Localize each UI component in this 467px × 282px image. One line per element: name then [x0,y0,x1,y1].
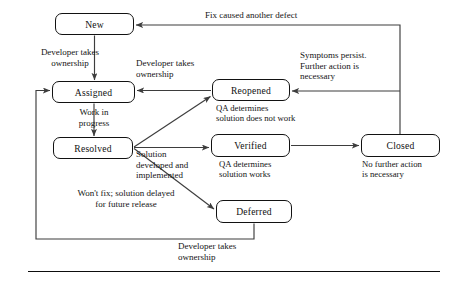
defect-lifecycle-diagram: New Assigned Resolved Reopened Verified … [0,0,467,282]
state-label-new: New [85,19,104,30]
state-label-reopened: Reopened [231,85,271,96]
edge-label-assigned-to-resolved: Work in progress [58,107,130,128]
state-label-resolved: Resolved [74,143,111,154]
state-node-reopened: Reopened [212,79,290,101]
edge-label-resolved-to-deferred: Won't fix; solution delayed for future r… [48,188,204,209]
edge-label-reopened-to-assigned: Developer takes ownership [136,58,239,79]
state-node-resolved: Resolved [53,137,133,159]
state-label-verified: Verified [234,140,267,151]
note-reopened: QA determines solution does not work [216,103,346,123]
state-node-closed: Closed [361,134,440,157]
edge-label-new-to-assigned: Developer takes ownership [14,47,126,68]
state-label-deferred: Deferred [236,206,272,217]
edge-label-deferred-to-assigned: Developer takes ownership [178,241,288,262]
edge-label-closed-to-new: Fix caused another defect [205,10,380,21]
state-node-deferred: Deferred [216,200,292,223]
edge-label-closed-to-reopened: Symptoms persist. Further action is nece… [300,50,404,82]
state-node-assigned: Assigned [52,81,135,103]
state-label-closed: Closed [387,140,415,151]
note-closed: No further action is necessary [362,159,466,179]
state-label-assigned: Assigned [75,87,112,98]
note-verified: QA determines solution works [219,159,325,179]
state-node-new: New [55,13,134,35]
edge-resolved-to-reopened [134,97,211,148]
bottom-divider-rule [28,271,440,272]
